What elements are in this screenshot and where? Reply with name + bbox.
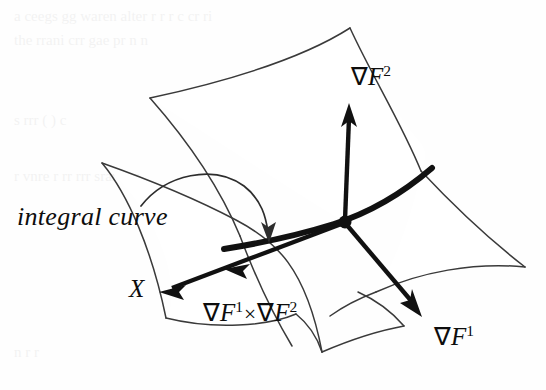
label-vector-x: X <box>129 276 144 301</box>
surface-lower-right-flap <box>322 292 404 352</box>
label-grad-f2-base: F <box>368 63 383 90</box>
surface-lower-right-flap-edge-a <box>322 326 404 352</box>
label-cross-product: ∇F1×∇F2 <box>203 299 297 326</box>
surface-right-wing-edge-tail <box>330 292 376 316</box>
intersection-point-dot <box>339 216 352 229</box>
label-cross-right-superscript: 2 <box>289 298 297 315</box>
cross-operator-icon: × <box>243 302 257 326</box>
label-grad-f1-superscript: 1 <box>466 322 474 339</box>
figure-container: a ceegs gg waren alter r r r c cr ri the… <box>0 0 546 390</box>
label-cross-left-base: F <box>220 299 235 326</box>
surface-upper-back-fill <box>150 28 425 222</box>
nabla-symbol-cross-right: ∇ <box>257 299 274 326</box>
label-cross-left-superscript: 1 <box>235 298 243 315</box>
nabla-symbol-cross-left: ∇ <box>203 299 220 326</box>
label-grad-f1: ∇F1 <box>434 323 474 349</box>
label-vector-x-text: X <box>129 275 144 302</box>
label-integral-curve: integral curve <box>17 204 168 230</box>
label-grad-f2: ∇F2 <box>351 63 391 89</box>
nabla-symbol-f2: ∇ <box>351 63 368 90</box>
label-cross-right-base: F <box>274 299 289 326</box>
nabla-symbol-f1: ∇ <box>434 323 451 350</box>
label-grad-f2-superscript: 2 <box>383 62 391 79</box>
label-grad-f1-base: F <box>451 323 466 350</box>
